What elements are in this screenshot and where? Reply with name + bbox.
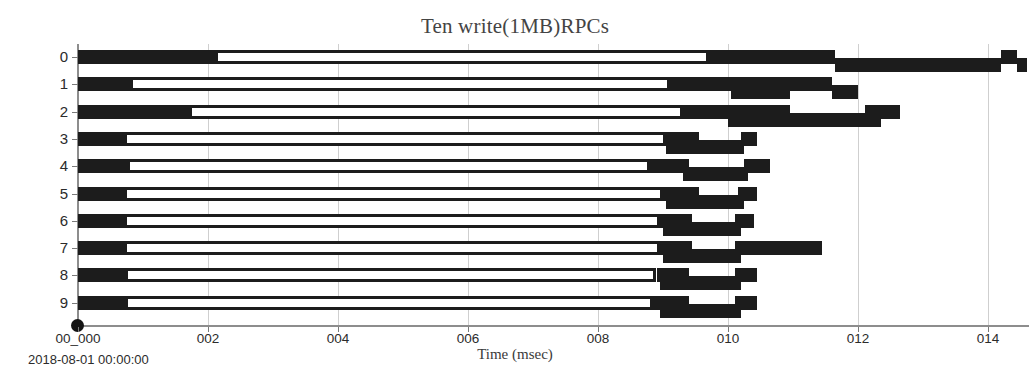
y-tick-label: 8 [40, 266, 68, 283]
gridline [988, 44, 989, 325]
rpc-9-segment-solid [660, 304, 741, 318]
rpc-0-segment-solid [835, 58, 1001, 72]
y-tick-label: 5 [40, 185, 68, 202]
x-axis-line [77, 325, 1029, 327]
rpc-9-segment-hollow [125, 296, 653, 310]
rpc-2-segment-hollow [189, 105, 683, 119]
rpc-6-segment-solid [663, 222, 741, 236]
x-tick-label: 002 [197, 331, 220, 346]
rpc-9-segment-solid [78, 296, 125, 310]
x-tick-label: 008 [587, 331, 610, 346]
rpc-1-segment-hollow [130, 77, 670, 91]
rpc-2-segment-solid [78, 105, 189, 119]
rpc-7-segment-solid [78, 241, 124, 255]
x-tick-label: 010 [717, 331, 740, 346]
y-tick-label: 2 [40, 103, 68, 120]
y-tick-label: 4 [40, 157, 68, 174]
gridline [858, 44, 859, 325]
rpc-0-segment-solid [709, 50, 836, 64]
rpc-8-segment-hollow [125, 268, 657, 282]
x-tick-label: 014 [977, 331, 1000, 346]
y-tick-label: 0 [40, 48, 68, 65]
rpc-2-segment-solid [790, 113, 881, 127]
rpc-7-segment-solid [735, 241, 823, 255]
rpc-8-segment-solid [735, 268, 758, 282]
rpc-4-segment-solid [744, 159, 770, 173]
rpc-8-segment-solid [660, 276, 741, 290]
rpc-4-segment-hollow [127, 159, 650, 173]
rpc-5-segment-hollow [124, 187, 664, 201]
rpc-3-segment-solid [666, 140, 744, 154]
rpc-4-segment-solid [78, 159, 127, 173]
start-timestamp-label: 2018-08-01 00:00:00 [28, 352, 149, 367]
rpc-0-segment-hollow [215, 50, 709, 64]
rpc-0-segment-solid [1017, 58, 1027, 72]
rpc-1-segment-solid [731, 85, 790, 99]
rpc-6-segment-solid [78, 214, 124, 228]
x-tick-label: 012 [847, 331, 870, 346]
y-tick-label: 1 [40, 75, 68, 92]
x-tick-label: 006 [457, 331, 480, 346]
y-tick-label: 3 [40, 130, 68, 147]
rpc-5-segment-solid [78, 187, 124, 201]
rpc-6-segment-solid [735, 214, 755, 228]
rpc-1-segment-solid [790, 77, 832, 91]
rpc-1-segment-solid [832, 85, 858, 99]
rpc-timeline-chart: Ten write(1MB)RPCs 0123456789 00_0000020… [0, 0, 1030, 376]
rpc-5-segment-solid [666, 195, 744, 209]
rpc-3-segment-hollow [124, 132, 667, 146]
rpc-7-segment-solid [663, 249, 741, 263]
y-tick-label: 9 [40, 294, 68, 311]
rpc-6-segment-hollow [124, 214, 660, 228]
rpc-0-segment-solid [78, 50, 215, 64]
rpc-5-segment-solid [738, 187, 758, 201]
x-axis-title: Time (msec) [0, 346, 1030, 363]
x-tick-label: 00_000 [55, 331, 100, 346]
x-tick-label: 004 [327, 331, 350, 346]
y-tick-label: 7 [40, 239, 68, 256]
rpc-0-segment-solid [1001, 50, 1017, 64]
rpc-2-segment-solid [728, 113, 790, 127]
rpc-8-segment-solid [78, 268, 125, 282]
rpc-9-segment-solid [735, 296, 758, 310]
rpc-4-segment-solid [683, 167, 748, 181]
y-tick-label: 6 [40, 212, 68, 229]
rpc-1-segment-solid [78, 77, 130, 91]
rpc-3-segment-solid [741, 132, 757, 146]
chart-title: Ten write(1MB)RPCs [0, 14, 1030, 39]
rpc-3-segment-solid [78, 132, 124, 146]
rpc-7-segment-hollow [124, 241, 660, 255]
